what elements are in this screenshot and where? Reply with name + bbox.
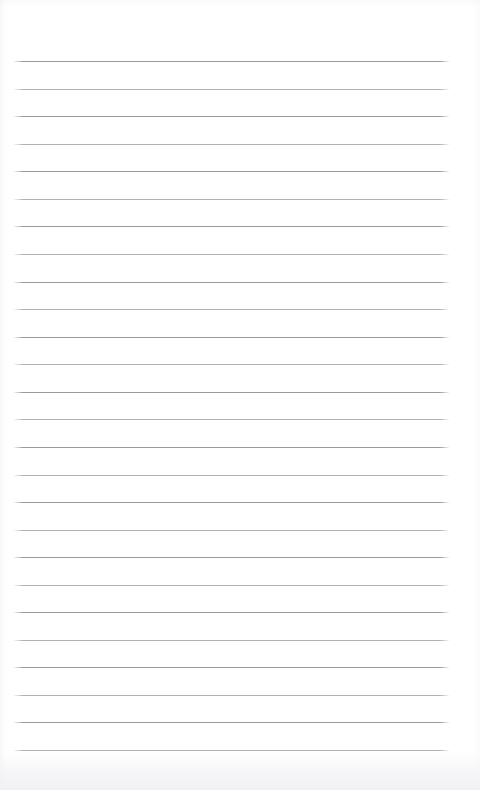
- rule-line: [13, 61, 450, 62]
- rule-line: [13, 226, 450, 227]
- rule-line: [13, 475, 450, 476]
- rule-line: [13, 557, 450, 558]
- rule-line: [13, 419, 450, 420]
- rule-line: [13, 282, 450, 283]
- rule-line: [13, 640, 450, 641]
- rule-line: [13, 116, 450, 117]
- rule-line: [13, 309, 450, 310]
- rule-line: [13, 667, 450, 668]
- rule-line: [13, 750, 450, 751]
- rule-line: [13, 392, 450, 393]
- rule-line: [13, 530, 450, 531]
- rule-line: [13, 337, 450, 338]
- rule-line: [13, 447, 450, 448]
- rule-line: [13, 171, 450, 172]
- ruled-writing-area[interactable]: [0, 0, 480, 790]
- rule-line: [13, 89, 450, 90]
- rule-line: [13, 364, 450, 365]
- rule-line: [13, 502, 450, 503]
- rule-line: [13, 254, 450, 255]
- notepad-page: [0, 0, 480, 790]
- rule-line: [13, 144, 450, 145]
- rule-line: [13, 695, 450, 696]
- rule-line: [13, 722, 450, 723]
- rule-line: [13, 612, 450, 613]
- rule-line: [13, 199, 450, 200]
- rule-line: [13, 585, 450, 586]
